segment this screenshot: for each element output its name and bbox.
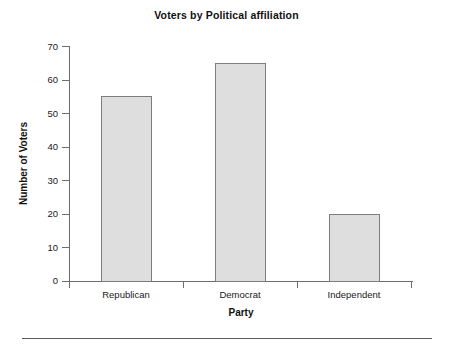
x-axis-title: Party bbox=[69, 307, 413, 318]
y-tick-label-70: 70 bbox=[30, 42, 58, 52]
y-tick-label-20: 20 bbox=[30, 209, 58, 219]
y-tick-label-30: 30 bbox=[30, 176, 58, 186]
x-category-label-democrat: Democrat bbox=[183, 290, 297, 300]
x-tick-mark-1 bbox=[183, 282, 184, 288]
y-tick-label-0: 0 bbox=[30, 276, 58, 286]
y-tick-mark-30 bbox=[62, 180, 69, 181]
y-axis-line bbox=[69, 46, 70, 282]
bar-democrat bbox=[215, 63, 266, 282]
y-tick-mark-60 bbox=[62, 80, 69, 81]
x-category-label-republican: Republican bbox=[69, 290, 183, 300]
chart-title: Voters by Political affiliation bbox=[0, 9, 453, 21]
y-tick-label-10: 10 bbox=[30, 243, 58, 253]
y-tick-label-60: 60 bbox=[30, 75, 58, 85]
bar-chart-figure: Voters by Political affiliation 70 60 50… bbox=[0, 0, 453, 347]
y-tick-mark-20 bbox=[62, 214, 69, 215]
bar-republican bbox=[101, 96, 152, 282]
y-tick-mark-40 bbox=[62, 147, 69, 148]
y-axis-title: Number of Voters bbox=[18, 94, 29, 234]
y-tick-label-50: 50 bbox=[30, 109, 58, 119]
y-tick-mark-10 bbox=[62, 247, 69, 248]
y-tick-mark-70 bbox=[62, 46, 69, 47]
x-category-label-independent: Independent bbox=[297, 290, 411, 300]
x-tick-mark-2 bbox=[297, 282, 298, 288]
x-tick-mark-0 bbox=[69, 282, 70, 288]
bottom-divider bbox=[22, 338, 432, 339]
y-tick-label-40: 40 bbox=[30, 142, 58, 152]
y-tick-mark-0 bbox=[62, 281, 69, 282]
bar-independent bbox=[329, 214, 380, 282]
x-tick-mark-3 bbox=[411, 282, 412, 288]
y-tick-mark-50 bbox=[62, 113, 69, 114]
